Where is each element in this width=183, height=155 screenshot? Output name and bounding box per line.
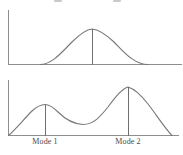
bimodal-chart bbox=[9, 80, 180, 136]
unimodal-chart bbox=[9, 10, 183, 65]
mode-1-label: Mode 1 bbox=[23, 137, 67, 146]
mode-2-label: Mode 2 bbox=[106, 137, 150, 146]
cropped-caption-remnants bbox=[54, 0, 121, 2]
figure-canvas bbox=[0, 0, 183, 155]
unimodal-axes bbox=[9, 10, 183, 65]
bimodal-axes bbox=[9, 80, 180, 136]
bimodal-distribution-figure: Mode 1 Mode 2 bbox=[0, 0, 183, 155]
bimodal-density-curve bbox=[9, 87, 173, 136]
unimodal-density-curve bbox=[40, 29, 148, 65]
